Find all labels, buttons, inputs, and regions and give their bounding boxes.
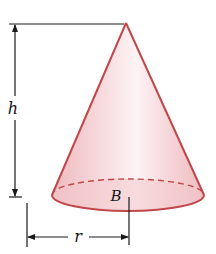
height-label: h: [8, 99, 18, 118]
cone: [52, 23, 204, 211]
cone-diagram: h B r: [0, 0, 216, 254]
base-label: B: [109, 187, 121, 205]
radius-label: r: [74, 227, 83, 246]
